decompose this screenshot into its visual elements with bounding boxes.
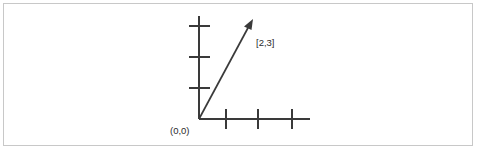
vector-arrowhead xyxy=(244,19,253,30)
vector-plot: (0,0) [2,3] xyxy=(4,4,472,145)
vector-arrow xyxy=(199,19,253,119)
vector-label: [2,3] xyxy=(256,37,275,48)
origin-label: (0,0) xyxy=(170,125,190,136)
vector-shaft xyxy=(199,26,249,119)
axes-group xyxy=(199,16,310,119)
figure-frame: (0,0) [2,3] xyxy=(3,3,473,146)
